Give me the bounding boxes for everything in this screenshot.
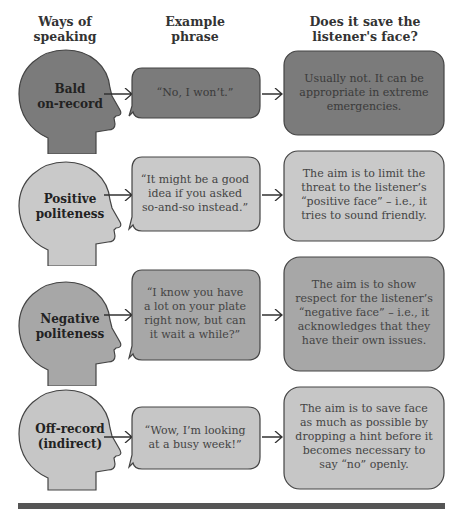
arrow-icon	[262, 189, 284, 201]
phrase-text: “I know you have	[128, 286, 262, 300]
header-line: speaking	[20, 29, 110, 44]
answer-bubble: The aim is to save face as much as possi…	[283, 386, 445, 490]
header-saves-face: Does it save the listener's face?	[290, 14, 440, 44]
answer-text: Usually not. It can be	[283, 72, 445, 86]
header-line: Ways of	[20, 14, 110, 29]
answer-bubble: Usually not. It can be appropriate in ex…	[283, 50, 445, 136]
answer-text: respect for the listener’s	[283, 292, 445, 306]
header-line: Example	[145, 14, 245, 29]
answer-bubble: The aim is to limit the threat to the li…	[283, 150, 445, 242]
answer-text: “positive face” – i.e., it	[283, 195, 445, 209]
phrase-bubble: “It might be a good idea if you asked so…	[128, 155, 262, 233]
answer-text: becomes necessary to	[283, 444, 445, 458]
header-line: listener's face?	[290, 29, 440, 44]
head-silhouette-negative-politeness: Negative politeness	[16, 278, 128, 386]
answer-text: threat to the listener’s	[283, 181, 445, 195]
phrase-text: a lot on your plate	[128, 300, 262, 314]
way-label: politeness	[22, 207, 118, 222]
answer-text: emergencies.	[283, 100, 445, 114]
phrase-text: “It might be a good	[128, 173, 262, 187]
phrase-text: at a busy week!”	[128, 438, 262, 452]
head-silhouette-bald-on-record: Bald on-record	[16, 46, 128, 154]
header-example-phrase: Example phrase	[145, 14, 245, 44]
answer-text: appropriate in extreme	[283, 86, 445, 100]
answer-text: The aim is to save face	[283, 402, 445, 416]
arrow-icon	[262, 309, 284, 321]
phrase-text: it wait a while?”	[128, 328, 262, 342]
footer-divider-bar	[18, 503, 445, 509]
answer-text: dropping a hint before it	[283, 430, 445, 444]
phrase-text: right now, but can	[128, 314, 262, 328]
answer-text: The aim is to limit the	[283, 167, 445, 181]
phrase-bubble: “I know you have a lot on your plate rig…	[128, 268, 262, 362]
header-line: phrase	[145, 29, 245, 44]
answer-text: have their own issues.	[283, 334, 445, 348]
answer-text: “negative face” – i.e., it	[283, 306, 445, 320]
arrow-icon	[262, 88, 284, 100]
head-silhouette-positive-politeness: Positive politeness	[16, 158, 128, 266]
phrase-text: “No, I won’t.”	[128, 86, 262, 100]
answer-text: acknowledges that they	[283, 320, 445, 334]
phrase-bubble: “Wow, I’m looking at a busy week!”	[128, 405, 262, 471]
phrase-text: so-and-so instead.”	[128, 201, 262, 215]
arrow-icon	[262, 431, 284, 443]
phrase-bubble: “No, I won’t.”	[128, 66, 262, 120]
phrase-text: idea if you asked	[128, 187, 262, 201]
header-line: Does it save the	[290, 14, 440, 29]
answer-text: as much as possible by	[283, 416, 445, 430]
answer-bubble: The aim is to show respect for the liste…	[283, 256, 445, 372]
answer-text: The aim is to show	[283, 278, 445, 292]
answer-text: tries to sound friendly.	[283, 209, 445, 223]
way-label: politeness	[22, 327, 118, 342]
phrase-text: “Wow, I’m looking	[128, 424, 262, 438]
header-ways-of-speaking: Ways of speaking	[20, 14, 110, 44]
answer-text: say “no” openly.	[283, 458, 445, 472]
